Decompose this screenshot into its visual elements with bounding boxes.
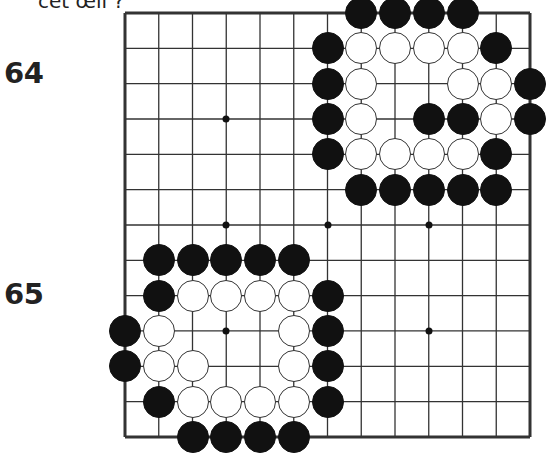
black-stone [278, 421, 310, 453]
black-stone [312, 386, 344, 418]
white-stone [447, 32, 479, 64]
black-stone [312, 138, 344, 170]
white-stone [278, 350, 310, 382]
black-stone [109, 315, 141, 347]
black-stone [312, 32, 344, 64]
black-stone [312, 103, 344, 135]
black-stone [480, 138, 512, 170]
black-stone [177, 244, 209, 276]
white-stone [244, 386, 276, 418]
star-point [223, 115, 230, 122]
white-stone [480, 68, 512, 100]
white-stone [413, 138, 445, 170]
black-stone [312, 315, 344, 347]
black-stone [514, 103, 546, 135]
star-point [324, 221, 331, 228]
white-stone [143, 315, 175, 347]
white-stone [447, 68, 479, 100]
black-stone [447, 103, 479, 135]
white-stone [413, 32, 445, 64]
black-stone [312, 350, 344, 382]
black-stone [514, 68, 546, 100]
white-stone [177, 350, 209, 382]
black-stone [109, 350, 141, 382]
white-stone [447, 138, 479, 170]
white-stone [177, 280, 209, 312]
white-stone [345, 138, 377, 170]
go-board [0, 0, 548, 456]
white-stone [177, 386, 209, 418]
black-stone [143, 244, 175, 276]
white-stone [278, 315, 310, 347]
black-stone [278, 244, 310, 276]
black-stone [413, 103, 445, 135]
white-stone [345, 32, 377, 64]
white-stone [379, 138, 411, 170]
black-stone [143, 280, 175, 312]
black-stone [210, 244, 242, 276]
black-stone [480, 174, 512, 206]
star-point [223, 221, 230, 228]
star-point [425, 327, 432, 334]
black-stone [177, 421, 209, 453]
black-stone [244, 244, 276, 276]
black-stone [210, 421, 242, 453]
white-stone [345, 103, 377, 135]
white-stone [210, 386, 242, 418]
white-stone [244, 280, 276, 312]
black-stone [345, 174, 377, 206]
white-stone [379, 32, 411, 64]
star-point [425, 221, 432, 228]
black-stone [143, 386, 175, 418]
white-stone [278, 386, 310, 418]
white-stone [278, 280, 310, 312]
white-stone [210, 280, 242, 312]
black-stone [244, 421, 276, 453]
white-stone [480, 103, 512, 135]
black-stone [312, 68, 344, 100]
star-point [223, 327, 230, 334]
black-stone [379, 174, 411, 206]
black-stone [447, 174, 479, 206]
black-stone [312, 280, 344, 312]
white-stone [345, 68, 377, 100]
black-stone [480, 32, 512, 64]
black-stone [413, 174, 445, 206]
white-stone [143, 350, 175, 382]
